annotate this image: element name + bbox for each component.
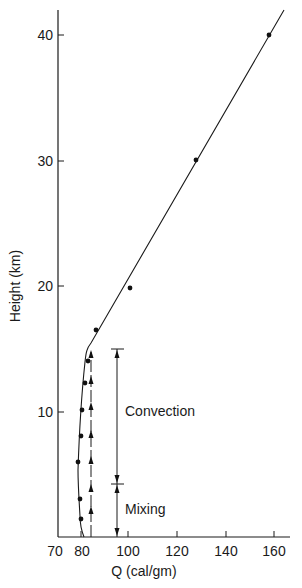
x-ticks xyxy=(81,531,274,537)
x-tick-160: 160 xyxy=(262,543,286,559)
range-bar xyxy=(111,349,124,537)
x-tick-labels: 70 80 100 120 140 160 xyxy=(47,543,286,559)
y-tick-30: 30 xyxy=(37,153,53,169)
y-tick-10: 10 xyxy=(37,404,53,420)
x-axis-label: Q (cal/gm) xyxy=(111,563,176,579)
y-ticks xyxy=(58,35,64,412)
convective-arrows xyxy=(89,350,94,537)
x-tick-120: 120 xyxy=(165,543,189,559)
y-tick-40: 40 xyxy=(37,27,53,43)
x-tick-70: 70 xyxy=(47,543,63,559)
x-tick-140: 140 xyxy=(214,543,238,559)
x-tick-80: 80 xyxy=(74,543,90,559)
data-points xyxy=(76,33,272,522)
y-axis-label: Height (km) xyxy=(7,250,23,322)
y-tick-labels: 10 20 30 40 xyxy=(37,27,53,420)
chart: 10 20 30 40 70 80 100 120 140 160 Q (cal… xyxy=(0,0,302,588)
convection-label: Convection xyxy=(125,403,195,419)
mixing-label: Mixing xyxy=(125,501,165,517)
x-tick-100: 100 xyxy=(116,543,140,559)
q-profile-curve xyxy=(78,10,284,537)
y-tick-20: 20 xyxy=(37,278,53,294)
